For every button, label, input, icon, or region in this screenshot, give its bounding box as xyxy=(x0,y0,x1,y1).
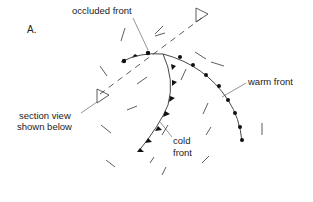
section-line xyxy=(97,8,208,103)
section-marker-icon-bottom xyxy=(97,89,109,103)
wind-arrow-icon xyxy=(150,157,154,163)
warm-front xyxy=(163,54,244,142)
section-leader xyxy=(81,102,97,113)
occluded-front xyxy=(121,51,163,63)
frontal-system-diagram: A. occluded front warm front section vie… xyxy=(0,0,313,202)
cold-front xyxy=(137,54,177,152)
leader-lines xyxy=(81,18,246,137)
warm-leader xyxy=(222,83,246,97)
wind-arrow-icon xyxy=(162,167,166,175)
wind-arrow-icon xyxy=(106,160,115,167)
wind-arrow-icon xyxy=(101,125,111,133)
occluded-front-label: occluded front xyxy=(72,5,132,16)
wind-arrow-icon xyxy=(127,106,137,110)
section-label-line1: section view xyxy=(19,110,71,121)
wind-arrow-icon xyxy=(121,28,125,41)
wind-arrow-icon xyxy=(202,156,209,163)
occluded-leader xyxy=(133,18,148,50)
cold-front-label-line2: front xyxy=(173,147,192,158)
warm-front-label: warm front xyxy=(247,76,293,87)
wind-arrow-icon xyxy=(100,66,107,76)
wind-arrow-icon xyxy=(206,127,211,135)
wind-arrow-icon xyxy=(211,62,224,66)
wind-arrow-icon xyxy=(162,125,168,135)
wind-arrow-icon xyxy=(195,52,206,59)
section-label-line2: shown below xyxy=(17,121,72,132)
wind-arrow-icon xyxy=(155,33,165,36)
panel-label: A. xyxy=(27,24,36,35)
wind-arrow-icon xyxy=(181,69,186,80)
wind-arrow-icon xyxy=(155,26,163,34)
section-marker-icon-top xyxy=(196,8,208,22)
wind-arrow-icon xyxy=(137,77,147,84)
cold-front-label-line1: cold xyxy=(173,135,190,146)
wind-arrow-icon xyxy=(203,103,208,114)
